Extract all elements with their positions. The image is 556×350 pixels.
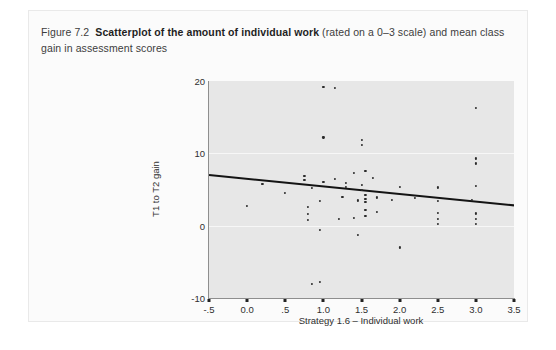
x-tick-mark — [284, 299, 287, 302]
y-axis-ticks: -1001020 — [173, 57, 205, 321]
y-axis-line — [208, 81, 209, 299]
x-tick-label: 1.5 — [355, 304, 368, 315]
x-tick-label: 2.0 — [393, 304, 406, 315]
x-tick-mark — [322, 299, 325, 302]
plot-panel — [209, 81, 514, 298]
x-tick-mark — [398, 299, 401, 302]
figure-caption: Figure 7.2 Scatterplot of the amount of … — [41, 25, 515, 56]
x-tick-label: 2.5 — [431, 304, 444, 315]
x-tick-label: 1.0 — [317, 304, 330, 315]
gridline-y-10 — [209, 153, 514, 154]
scatterplot-chart: -1001020 -.50.0.51.01.52.02.53.03.5 T1 t… — [29, 57, 527, 321]
x-tick-label: -.5 — [203, 304, 214, 315]
gridline-y-0 — [209, 226, 514, 227]
x-axis-title: Strategy 1.6 – Individual work — [299, 315, 424, 326]
y-tick-label: 20 — [177, 76, 205, 87]
x-tick-mark — [208, 299, 211, 302]
x-tick-label: .5 — [281, 304, 289, 315]
x-tick-mark — [513, 299, 516, 302]
x-tick-label: 3.0 — [469, 304, 482, 315]
x-tick-label: 3.5 — [507, 304, 520, 315]
y-axis-title: T1 to T2 gain — [150, 161, 161, 217]
x-tick-mark — [246, 299, 249, 302]
figure-caption-bold: Scatterplot of the amount of individual … — [95, 26, 319, 38]
y-tick-label: -10 — [177, 293, 205, 304]
y-tick-label: 0 — [177, 220, 205, 231]
x-tick-mark — [474, 299, 477, 302]
figure-frame: Figure 7.2 Scatterplot of the amount of … — [28, 10, 528, 322]
y-tick-label: 10 — [177, 148, 205, 159]
x-tick-mark — [436, 299, 439, 302]
x-tick-mark — [360, 299, 363, 302]
x-tick-label: 0.0 — [241, 304, 254, 315]
figure-number: Figure 7.2 — [41, 26, 89, 38]
